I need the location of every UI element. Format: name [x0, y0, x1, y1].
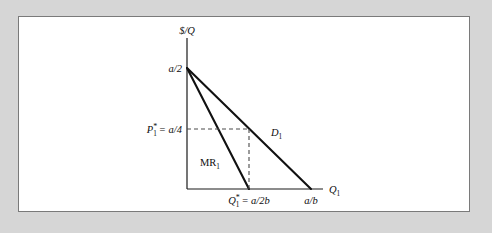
demand-curve-label: D1: [270, 127, 283, 141]
demand-x-intercept-label: a/b: [304, 195, 317, 206]
price-subscript: 1: [153, 130, 157, 138]
y-axis-label: $/Q: [179, 25, 195, 36]
mr-subscript: 1: [216, 163, 220, 171]
marginal-revenue-label: MR1: [200, 157, 220, 171]
figure-panel: $/Q a/2 P*1= a/4 Q*1= a/2b a/b D1 MR1 Q1: [18, 16, 470, 212]
x-axis-label: Q1: [329, 184, 341, 198]
vertical-intercept-label: a/2: [169, 63, 183, 74]
mr-symbol: MR: [200, 157, 216, 168]
price-value: = a/4: [159, 124, 183, 135]
equilibrium-quantity-label: Q*1= a/2b: [228, 193, 270, 209]
demand-curve: [187, 68, 311, 189]
quantity-value: = a/2b: [241, 195, 269, 206]
x-axis-subscript: 1: [337, 190, 341, 198]
quantity-subscript: 1: [236, 201, 240, 209]
equilibrium-price-label: P*1= a/4: [146, 122, 183, 138]
monopoly-demand-mr-chart: $/Q a/2 P*1= a/4 Q*1= a/2b a/b D1 MR1 Q1: [19, 17, 469, 211]
demand-subscript: 1: [279, 133, 283, 141]
